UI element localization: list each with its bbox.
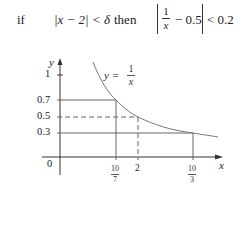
y-tick-label-0.3: 0.3 (37, 126, 50, 137)
x-tick-den: 3 (190, 176, 194, 184)
x-tick-den: 7 (113, 176, 117, 184)
curve-label-text: y = (104, 69, 119, 81)
y-tick-label-0.5: 0.5 (37, 110, 50, 121)
curve-label-num: 1 (129, 64, 134, 74)
x-tick-num: 10 (111, 165, 119, 173)
x-tick-label-10-7: 10 7 (111, 165, 119, 184)
curve-label-fraction: 1 x (127, 64, 135, 87)
x-tick-num: 10 (188, 165, 196, 173)
origin-label: 0 (47, 158, 52, 169)
y-tick-label-1: 1 (45, 68, 50, 79)
y-axis-arrow-icon (58, 58, 63, 65)
curve-label-prefix: y = (104, 69, 119, 81)
x-tick-label-10-3: 10 3 (188, 165, 196, 184)
x-tick-label-2: 2 (135, 163, 140, 173)
y-tick-label-0.7: 0.7 (37, 94, 50, 105)
y-axis-label: y (49, 56, 54, 68)
x-axis-label: x (219, 159, 224, 171)
curve-label-den: x (129, 77, 133, 87)
